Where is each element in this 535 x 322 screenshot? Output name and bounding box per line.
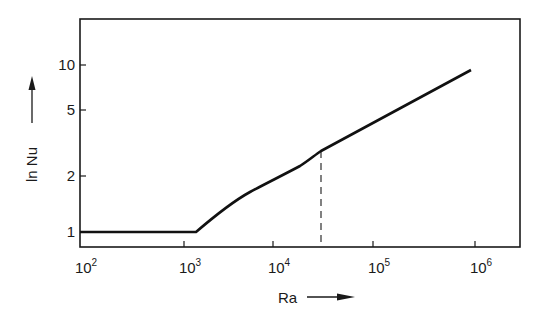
x-tick-label-1e3: 103 [179,257,202,276]
x-tick-label-1e2: 102 [75,257,98,276]
y-tick-label-5: 5 [67,101,75,118]
chart: 10 5 2 1 102 103 104 105 106 ln Nu Ra [0,0,535,322]
x-tick-label-1e5: 105 [368,257,391,276]
x-axis-label: Ra [278,289,298,306]
x-tick-label-1e4: 104 [268,257,291,276]
x-ticks [184,241,475,247]
x-axis-arrow-icon [307,294,355,301]
y-tick-label-1: 1 [67,223,75,240]
plot-frame [80,19,520,247]
nusselt-curve [80,70,471,232]
y-tick-label-10: 10 [58,56,75,73]
y-axis-label: ln Nu [23,147,40,182]
y-ticks [80,65,86,176]
x-tick-label-1e6: 106 [470,257,493,276]
x-tick-labels: 102 103 104 105 106 [75,257,493,276]
y-axis-arrow-icon [29,76,36,123]
y-tick-labels: 10 5 2 1 [58,56,75,240]
y-tick-label-2: 2 [67,167,75,184]
y-axis-title: ln Nu [23,147,40,182]
